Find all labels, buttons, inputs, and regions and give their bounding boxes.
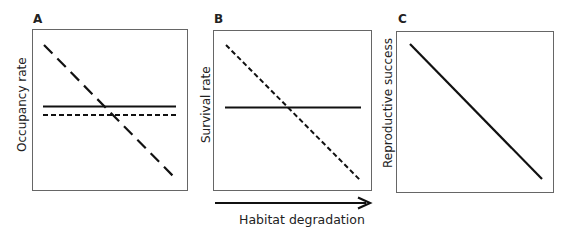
panel-b — [214, 31, 372, 209]
chart-canvas — [0, 0, 567, 237]
panel-a — [33, 30, 188, 191]
panel-a-frame — [33, 30, 188, 191]
x-axis-label: Habitat degradation — [239, 212, 365, 227]
panel-c — [397, 32, 554, 193]
